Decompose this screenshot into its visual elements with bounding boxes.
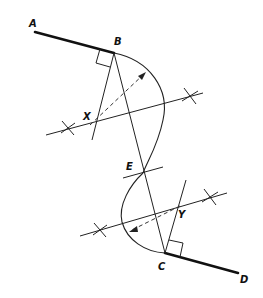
bisector-tick-lower-left bbox=[93, 223, 107, 237]
label-C: C bbox=[158, 261, 166, 272]
arrowhead-upper bbox=[138, 72, 146, 80]
bisector-tick-upper-right bbox=[182, 88, 198, 104]
label-E: E bbox=[126, 161, 133, 172]
perpendicular-at-B bbox=[92, 53, 114, 140]
line-AB bbox=[35, 32, 114, 53]
label-Y: Y bbox=[178, 209, 187, 220]
bisector-BE bbox=[46, 93, 203, 135]
ogee-curve-diagram: A B E X Y C D bbox=[0, 0, 263, 298]
arc-BE bbox=[114, 53, 164, 173]
label-X: X bbox=[82, 111, 92, 122]
label-A: A bbox=[28, 18, 37, 29]
label-B: B bbox=[114, 36, 122, 47]
bisector-tick-lower-right bbox=[202, 189, 218, 205]
label-D: D bbox=[240, 274, 248, 285]
bisector-EC bbox=[80, 193, 227, 236]
arrowhead-lower bbox=[129, 226, 138, 232]
line-CD bbox=[165, 253, 238, 273]
